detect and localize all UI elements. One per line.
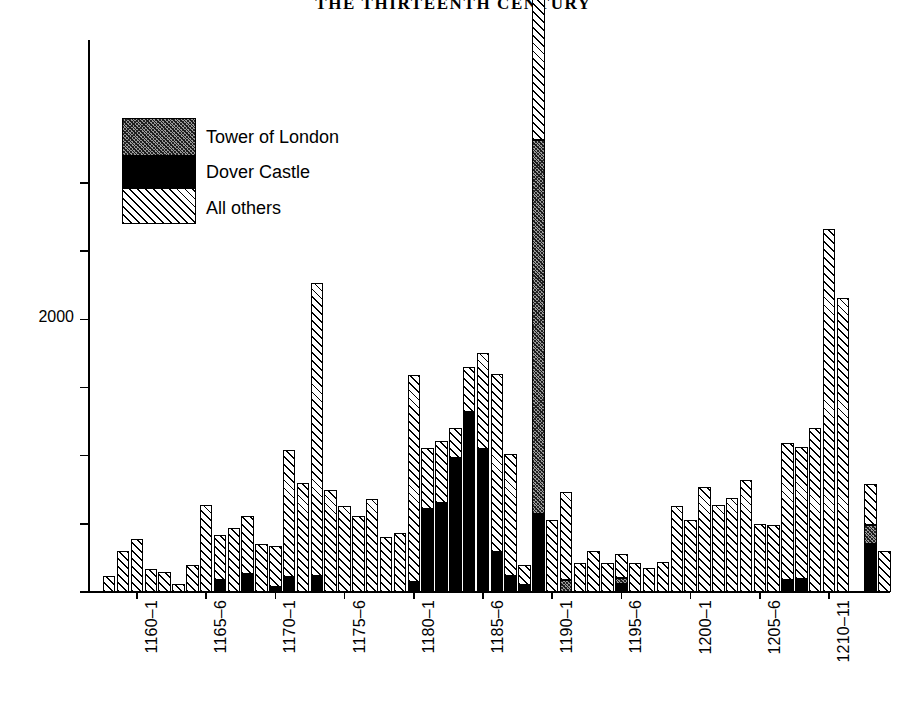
bar-column [477, 353, 489, 592]
bar-segment-dover-castle [864, 544, 876, 592]
bar-column [712, 505, 724, 592]
x-axis-tick-label: 1180–1 [420, 600, 438, 653]
bar-column [131, 539, 143, 592]
bar-segment-all-others [352, 516, 364, 592]
bar-segment-all-others [574, 563, 586, 592]
bar-column [269, 546, 281, 592]
bar-column [740, 480, 752, 592]
x-axis-tick-label: 1195–6 [627, 600, 645, 653]
bar-column [366, 499, 378, 592]
bar-column [809, 428, 821, 592]
bar-segment-dover-castle [795, 579, 807, 592]
bar-segment-all-others [324, 490, 336, 592]
bar-segment-all-others [767, 525, 779, 592]
bar-column [864, 484, 876, 592]
bar-column [172, 584, 184, 592]
bar-segment-dover-castle [311, 576, 323, 592]
bar-segment-all-others [131, 539, 143, 592]
bar-segment-dover-castle [435, 503, 447, 592]
bar-column [698, 487, 710, 592]
x-axis-tick [482, 592, 484, 599]
x-axis-tick [275, 592, 277, 599]
bar-column [408, 375, 420, 592]
bar-segment-all-others [338, 506, 350, 592]
bar-segment-dover-castle [781, 580, 793, 592]
legend-label-tower-of-london: Tower of London [206, 127, 339, 148]
bar-column [352, 516, 364, 592]
bar-segment-dover-castle [463, 412, 475, 592]
bar-column [214, 535, 226, 592]
y-axis-tick [80, 182, 88, 184]
bar-column [615, 554, 627, 592]
bar-segment-all-others [421, 448, 433, 509]
bar-segment-all-others [518, 565, 530, 585]
x-axis-tick [551, 592, 553, 599]
bar-segment-tower-of-london [864, 525, 876, 544]
bar-column [837, 298, 849, 592]
bar-segment-all-others [435, 441, 447, 503]
y-axis-tick [80, 455, 88, 457]
x-axis-tick [205, 592, 207, 599]
bar-column [795, 447, 807, 592]
y-axis-tick [80, 250, 88, 252]
bar-column [145, 569, 157, 592]
bar-segment-all-others [200, 505, 212, 592]
bar-segment-all-others [560, 492, 572, 581]
bar-segment-dover-castle [477, 449, 489, 592]
bar-segment-all-others [297, 483, 309, 592]
bar-segment-all-others [186, 565, 198, 592]
bar-column [394, 533, 406, 592]
bar-segment-all-others [795, 447, 807, 579]
bar-column [311, 283, 323, 592]
bar-column [643, 568, 655, 592]
y-axis-tick [80, 591, 88, 593]
bar-column [657, 562, 669, 592]
bar-column [601, 563, 613, 592]
bar-segment-dover-castle [518, 585, 530, 592]
bar-segment-all-others [228, 528, 240, 592]
x-axis-tick [344, 592, 346, 599]
x-axis-tick-label: 1210–11 [835, 600, 853, 663]
bar-segment-all-others [449, 428, 461, 458]
bar-segment-all-others [837, 298, 849, 592]
x-axis-tick-label: 1160–1 [143, 600, 161, 653]
bar-segment-all-others [145, 569, 157, 592]
bar-segment-all-others [726, 498, 738, 592]
bar-column [878, 551, 890, 592]
bar-segment-all-others [117, 551, 129, 592]
bar-segment-all-others [158, 572, 170, 592]
bar-column [463, 367, 475, 592]
bar-segment-dover-castle [449, 458, 461, 592]
bar-segment-all-others [684, 520, 696, 592]
bar-column [338, 506, 350, 592]
bar-column [767, 525, 779, 592]
bar-segment-all-others [463, 367, 475, 412]
bar-segment-all-others [366, 499, 378, 592]
x-axis-tick-label: 1185–6 [489, 600, 507, 653]
bar-segment-dover-castle [615, 584, 627, 592]
bar-segment-dover-castle [241, 574, 253, 592]
y-axis-tick [80, 319, 88, 321]
bar-segment-all-others [740, 480, 752, 592]
legend-label-all-others: All others [206, 198, 281, 219]
x-axis-tick-label: 1175–6 [351, 600, 369, 653]
y-axis-tick [80, 387, 88, 389]
bar-column [560, 492, 572, 592]
x-axis-tick [621, 592, 623, 599]
bar-column [421, 448, 433, 592]
bar-column [380, 537, 392, 592]
bar-segment-tower-of-london [560, 580, 572, 592]
bar-column [435, 441, 447, 592]
y-axis-tick-label: 2000 [38, 308, 74, 326]
bar-segment-dover-castle [283, 577, 295, 592]
bar-segment-dover-castle [408, 582, 420, 592]
bar-segment-all-others [698, 487, 710, 592]
bar-segment-all-others [241, 516, 253, 575]
bar-segment-dover-castle [269, 587, 281, 592]
plot-area [89, 40, 890, 592]
bar-segment-dover-castle [532, 514, 544, 592]
bar-segment-all-others [601, 563, 613, 592]
bar-segment-all-others [712, 505, 724, 592]
bar-column [587, 551, 599, 592]
bar-segment-all-others [311, 283, 323, 576]
